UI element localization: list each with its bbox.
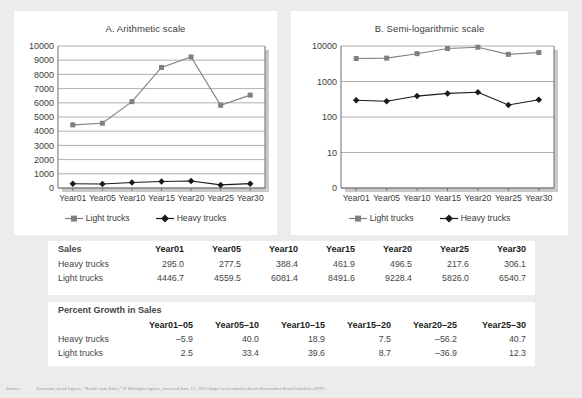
table-cell: 4559.5 bbox=[193, 271, 250, 285]
footnote-text: Economic trend figures, “Retail Auto Sal… bbox=[36, 386, 324, 391]
chart-b-svg: 010100100010000Year01Year05Year10Year15Y… bbox=[291, 40, 568, 210]
svg-text:10000: 10000 bbox=[312, 41, 337, 51]
svg-text:6000: 6000 bbox=[34, 98, 54, 108]
column-header: Year25–30 bbox=[466, 318, 535, 332]
table-cell: 295.0 bbox=[136, 257, 193, 271]
chart-b-title: B. Semi-logarithmic scale bbox=[291, 11, 568, 34]
legend-marker-square-icon bbox=[65, 214, 83, 223]
chart-b-legend: Light trucks Heavy trucks bbox=[291, 213, 568, 223]
table-cell: 33.4 bbox=[202, 346, 268, 360]
table-header-row: SalesYear01Year05Year10Year15Year20Year2… bbox=[48, 241, 535, 257]
table-cell: –5.9 bbox=[136, 332, 202, 346]
column-header: Year10–15 bbox=[268, 318, 334, 332]
growth-table: Percent Growth in SalesYear01–05Year05–1… bbox=[48, 302, 535, 360]
column-header: Year01–05 bbox=[136, 318, 202, 332]
table-row: Light trucks4446.74559.56081.48491.69228… bbox=[48, 271, 535, 285]
table-cell: 9228.4 bbox=[364, 271, 421, 285]
svg-text:Year20: Year20 bbox=[464, 193, 491, 203]
svg-text:5000: 5000 bbox=[34, 112, 54, 122]
sales-table: SalesYear01Year05Year10Year15Year20Year2… bbox=[48, 241, 535, 285]
table-cell: 12.3 bbox=[466, 346, 535, 360]
svg-text:0: 0 bbox=[49, 183, 54, 193]
row-label: Light trucks bbox=[48, 271, 136, 285]
svg-text:Year15: Year15 bbox=[434, 193, 461, 203]
table-cell: 18.9 bbox=[268, 332, 334, 346]
row-label: Heavy trucks bbox=[48, 257, 136, 271]
svg-text:Year01: Year01 bbox=[343, 193, 370, 203]
table-cell: 8.7 bbox=[334, 346, 400, 360]
svg-text:Year10: Year10 bbox=[118, 193, 145, 203]
table-cell: 388.4 bbox=[250, 257, 307, 271]
table-cell: 277.5 bbox=[193, 257, 250, 271]
row-label: Light trucks bbox=[48, 346, 136, 360]
column-header: Year20–25 bbox=[400, 318, 466, 332]
chart-a-svg: 0100020003000400050006000700080009000100… bbox=[14, 40, 277, 210]
svg-text:Year05: Year05 bbox=[89, 193, 116, 203]
svg-text:Year25: Year25 bbox=[207, 193, 234, 203]
table-cell: 306.1 bbox=[478, 257, 535, 271]
svg-text:Year05: Year05 bbox=[373, 193, 400, 203]
svg-text:10000: 10000 bbox=[29, 41, 54, 51]
svg-text:4000: 4000 bbox=[34, 126, 54, 136]
table-cell: 8491.6 bbox=[307, 271, 364, 285]
legend-item-light-trucks: Light trucks bbox=[349, 213, 414, 223]
svg-text:7000: 7000 bbox=[34, 84, 54, 94]
table-cell: 40.0 bbox=[202, 332, 268, 346]
column-header: Year10 bbox=[250, 241, 307, 257]
table-row: Heavy trucks–5.940.018.97.5–56.240.7 bbox=[48, 332, 535, 346]
table-cell: 40.7 bbox=[466, 332, 535, 346]
legend-label: Light trucks bbox=[370, 213, 414, 223]
chart-panel-semilog: B. Semi-logarithmic scale 01010010001000… bbox=[291, 11, 568, 235]
svg-text:Year10: Year10 bbox=[404, 193, 431, 203]
table-header-row: Year01–05Year05–10Year10–15Year15–20Year… bbox=[48, 318, 535, 332]
table-cell: 5826.0 bbox=[421, 271, 478, 285]
svg-text:Year25: Year25 bbox=[495, 193, 522, 203]
table-title-row: Percent Growth in Sales bbox=[48, 302, 535, 318]
column-header: Year30 bbox=[478, 241, 535, 257]
footnote-lead: Source: bbox=[6, 386, 36, 391]
table-cell: 7.5 bbox=[334, 332, 400, 346]
chart-b-plot: 010100100010000Year01Year05Year10Year15Y… bbox=[291, 40, 568, 210]
growth-table-card: Percent Growth in SalesYear01–05Year05–1… bbox=[48, 302, 535, 366]
column-header: Year25 bbox=[421, 241, 478, 257]
table-cell: –56.2 bbox=[400, 332, 466, 346]
legend-item-heavy-trucks: Heavy trucks bbox=[156, 213, 227, 223]
svg-text:10: 10 bbox=[327, 148, 337, 158]
table-cell: 496.5 bbox=[364, 257, 421, 271]
svg-text:9000: 9000 bbox=[34, 55, 54, 65]
svg-text:Year20: Year20 bbox=[178, 193, 205, 203]
table-cell: 2.5 bbox=[136, 346, 202, 360]
table-cell: 39.6 bbox=[268, 346, 334, 360]
svg-text:100: 100 bbox=[322, 112, 337, 122]
table-section-title: Sales bbox=[48, 241, 136, 257]
row-label: Heavy trucks bbox=[48, 332, 136, 346]
column-header: Year05 bbox=[193, 241, 250, 257]
source-footnote: Source:Economic trend figures, “Retail A… bbox=[6, 386, 576, 391]
table-cell: 4446.7 bbox=[136, 271, 193, 285]
column-header: Year05–10 bbox=[202, 318, 268, 332]
figure-page: A. Arithmetic scale 01000200030004000500… bbox=[0, 0, 582, 398]
chart-a-plot: 0100020003000400050006000700080009000100… bbox=[14, 40, 277, 210]
legend-label: Light trucks bbox=[86, 213, 130, 223]
svg-text:2000: 2000 bbox=[34, 155, 54, 165]
legend-label: Heavy trucks bbox=[461, 213, 511, 223]
table-cell: 461.9 bbox=[307, 257, 364, 271]
svg-text:1000: 1000 bbox=[34, 169, 54, 179]
table-cell: –36.9 bbox=[400, 346, 466, 360]
table-row: Light trucks2.533.439.68.7–36.912.3 bbox=[48, 346, 535, 360]
table-section-title: Percent Growth in Sales bbox=[48, 302, 535, 318]
sales-table-card: SalesYear01Year05Year10Year15Year20Year2… bbox=[48, 241, 535, 295]
legend-item-light-trucks: Light trucks bbox=[65, 213, 130, 223]
svg-text:1000: 1000 bbox=[317, 77, 337, 87]
svg-text:Year15: Year15 bbox=[148, 193, 175, 203]
column-header: Year01 bbox=[136, 241, 193, 257]
svg-text:0: 0 bbox=[332, 183, 337, 193]
chart-a-legend: Light trucks Heavy trucks bbox=[14, 213, 277, 223]
legend-marker-diamond-icon bbox=[440, 214, 458, 223]
svg-text:Year30: Year30 bbox=[525, 193, 552, 203]
table-row: Heavy trucks295.0277.5388.4461.9496.5217… bbox=[48, 257, 535, 271]
legend-label: Heavy trucks bbox=[177, 213, 227, 223]
legend-item-heavy-trucks: Heavy trucks bbox=[440, 213, 511, 223]
column-header: Year15–20 bbox=[334, 318, 400, 332]
svg-text:3000: 3000 bbox=[34, 141, 54, 151]
